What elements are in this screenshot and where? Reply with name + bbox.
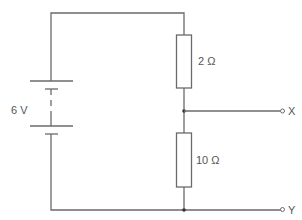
battery-label: 6 V <box>11 104 28 116</box>
terminal-y-label: Y <box>288 204 296 216</box>
resistor-2-ohm-label: 2 Ω <box>198 55 215 67</box>
battery: 6 V <box>11 81 73 134</box>
resistor-2-ohm <box>177 35 192 88</box>
terminal-x-label: X <box>288 105 296 117</box>
terminal-y <box>281 208 285 212</box>
circuit-diagram: 6 V 2 Ω X 10 Ω Y <box>0 0 302 220</box>
top-wire <box>51 13 184 81</box>
terminal-x <box>281 109 285 113</box>
resistor-10-ohm <box>177 133 192 187</box>
bottom-wire <box>51 134 282 210</box>
junction-dot <box>182 208 186 212</box>
resistor-10-ohm-label: 10 Ω <box>196 154 220 166</box>
